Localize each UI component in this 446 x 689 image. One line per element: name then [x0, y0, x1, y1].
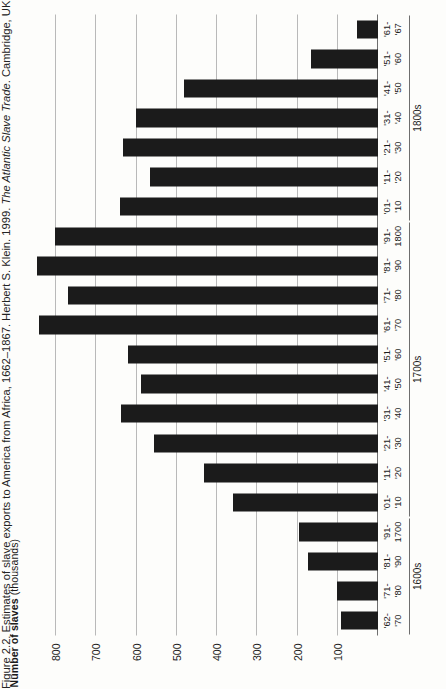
group-label: 1800s [412, 104, 423, 131]
bar [121, 404, 379, 422]
category-label-line: '01- [382, 494, 393, 509]
bar [39, 315, 378, 333]
category-label-line: '81- [382, 553, 393, 568]
category-label: '51-'60 [382, 51, 403, 66]
category-label: '71-'80 [382, 583, 403, 598]
figure-page: Number of slaves (thousands) 10020030040… [0, 0, 446, 689]
category-label-line: '71- [382, 583, 393, 598]
y-tick-label: 600 [131, 643, 143, 661]
category-label: '11-'20 [382, 465, 403, 480]
category-label-line: '80 [393, 287, 404, 302]
group-rule [409, 15, 410, 220]
category-label: '71-'80 [382, 287, 403, 302]
category-label-line: '10 [393, 494, 404, 509]
category-label-line: '10 [393, 199, 404, 214]
plot-area [36, 14, 378, 635]
category-label: '01-'10 [382, 199, 403, 214]
category-label-line: '31- [382, 110, 393, 125]
bar [204, 463, 378, 481]
category-label-line: 1800 [393, 225, 404, 246]
figure-caption: Figure 2.2. Estimates of slave exports t… [0, 0, 13, 689]
category-label-line: '51- [382, 346, 393, 361]
category-label: '21-'30 [382, 435, 403, 450]
category-label-line: '30 [393, 139, 404, 154]
group-label: 1600s [412, 562, 423, 589]
category-label-line: '50 [393, 376, 404, 391]
category-label: '61-'70 [382, 317, 403, 332]
category-label-line: '70 [393, 613, 404, 628]
category-label: '31-'40 [382, 406, 403, 421]
y-tick-label: 100 [332, 643, 344, 661]
category-label-line: '30 [393, 435, 404, 450]
category-label: '21-'30 [382, 139, 403, 154]
caption-prefix: Figure 2.2. Estimates of slave exports t… [0, 205, 12, 689]
category-label-line: '80 [393, 583, 404, 598]
category-label-line: 1700 [393, 521, 404, 542]
bar [154, 434, 378, 452]
category-label-line: '50 [393, 80, 404, 95]
bar [311, 49, 378, 67]
category-label-line: '20 [393, 169, 404, 184]
category-label-line: '70 [393, 317, 404, 332]
category-label-line: '81- [382, 258, 393, 273]
category-label-line: '11- [382, 169, 393, 184]
bar [299, 522, 378, 540]
category-label-line: '41- [382, 80, 393, 95]
category-label-line: '21- [382, 435, 393, 450]
category-label-line: '40 [393, 110, 404, 125]
category-label-line: '90 [393, 258, 404, 273]
bar [150, 167, 378, 185]
category-label-line: '20 [393, 465, 404, 480]
bar [68, 286, 378, 304]
category-label-line: '40 [393, 406, 404, 421]
category-label: '81-'90 [382, 553, 403, 568]
category-label-line: '91- [382, 521, 393, 542]
bar [37, 256, 378, 274]
category-label-line: '11- [382, 465, 393, 480]
bar [184, 79, 378, 97]
y-tick-label: 700 [90, 643, 102, 661]
caption-suffix: . Cambridge, UK: [0, 0, 12, 83]
bar [136, 108, 378, 126]
category-label-line: '21- [382, 139, 393, 154]
category-label: '91-1700 [382, 521, 403, 542]
category-label: '41-'50 [382, 80, 403, 95]
category-label: '41-'50 [382, 376, 403, 391]
chart-stage: Number of slaves (thousands) 10020030040… [0, 0, 446, 689]
y-tick-label: 200 [292, 643, 304, 661]
category-label-line: '01- [382, 199, 393, 214]
y-tick-label: 300 [251, 643, 263, 661]
category-label-line: '90 [393, 553, 404, 568]
category-label: '81-'90 [382, 258, 403, 273]
category-label-line: '61- [382, 21, 393, 36]
category-label-line: '41- [382, 376, 393, 391]
category-label-line: '60 [393, 51, 404, 66]
category-label-line: '91- [382, 225, 393, 246]
category-label: '91-1800 [382, 225, 403, 246]
bar [341, 611, 378, 629]
group-rule [409, 222, 410, 516]
category-label: '51-'60 [382, 346, 403, 361]
bar [233, 493, 378, 511]
category-label-line: '31- [382, 406, 393, 421]
category-label: '62-'70 [382, 613, 403, 628]
bar [357, 20, 378, 38]
category-label: '61-'67 [382, 21, 403, 36]
category-label-line: '71- [382, 287, 393, 302]
bar [337, 581, 378, 599]
category-label: '01-'10 [382, 494, 403, 509]
bar [141, 374, 378, 392]
category-label-line: '62- [382, 613, 393, 628]
category-label-line: '60 [393, 346, 404, 361]
category-label-line: '67 [393, 21, 404, 36]
category-label-line: '61- [382, 317, 393, 332]
group-rule [409, 518, 410, 634]
category-label-line: '51- [382, 51, 393, 66]
bar [123, 138, 378, 156]
bar [128, 345, 378, 363]
y-tick-label: 800 [50, 643, 62, 661]
y-tick-label: 400 [211, 643, 223, 661]
bar [55, 227, 378, 245]
category-label: '11-'20 [382, 169, 403, 184]
caption-book-title: The Atlantic Slave Trade [0, 83, 12, 204]
